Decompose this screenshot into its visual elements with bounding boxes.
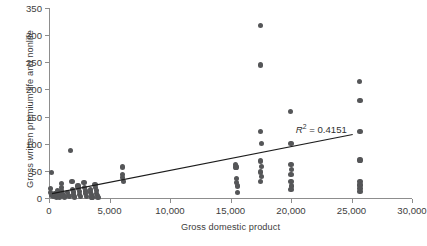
x-tick-label: 25,000 (337, 205, 366, 216)
y-tick-label: 150 (26, 111, 42, 122)
x-tick-label: 0 (46, 205, 51, 216)
y-tick-label: 350 (26, 3, 42, 14)
x-axis-title: Gross domestic product (49, 222, 412, 232)
trendline (49, 8, 412, 198)
r-squared-value: = 0.4151 (307, 124, 347, 135)
plot-area: 050100150200250300350 05,00010,00015,000… (49, 8, 412, 198)
x-tick (231, 199, 232, 203)
y-tick-label: 0 (37, 193, 42, 204)
y-tick-label: 50 (31, 165, 42, 176)
r-squared-prefix: R (296, 124, 303, 135)
x-tick-label: 30,000 (397, 205, 426, 216)
x-tick (49, 199, 50, 203)
y-tick-label: 200 (26, 84, 42, 95)
x-tick-label: 10,000 (155, 205, 184, 216)
y-tick-label: 300 (26, 30, 42, 41)
x-tick-label: 20,000 (276, 205, 305, 216)
r-squared-annotation: R2 = 0.4151 (296, 123, 347, 135)
y-tick-label: 100 (26, 138, 42, 149)
x-tick (412, 199, 413, 203)
x-tick (352, 199, 353, 203)
x-tick (170, 199, 171, 203)
x-tick (291, 199, 292, 203)
y-tick-label: 250 (26, 57, 42, 68)
x-tick-label: 15,000 (216, 205, 245, 216)
x-tick-label: 5,000 (97, 205, 121, 216)
x-tick (110, 199, 111, 203)
